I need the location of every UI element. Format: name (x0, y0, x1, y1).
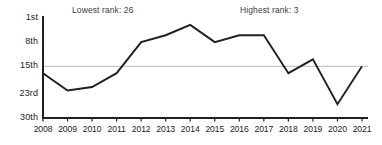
x-tick-label: 2012 (129, 124, 153, 134)
x-tick-label: 2014 (178, 124, 202, 134)
x-tick-label: 2013 (154, 124, 178, 134)
x-tick-label: 2008 (31, 124, 55, 134)
x-tick-label: 2010 (80, 124, 104, 134)
x-tick-label: 2018 (276, 124, 300, 134)
rank-line-chart: Lowest rank: 26 Highest rank: 3 1st8th15… (0, 0, 382, 145)
x-tick-label: 2011 (105, 124, 129, 134)
x-tick-label: 2021 (350, 124, 374, 134)
x-tick-label: 2016 (227, 124, 251, 134)
x-tick-label: 2019 (301, 124, 325, 134)
x-tick-label: 2020 (325, 124, 349, 134)
x-tick-label: 2017 (252, 124, 276, 134)
x-tick-label: 2009 (56, 124, 80, 134)
rank-data-line (43, 25, 362, 104)
x-axis-labels: 2008200920102011201220132014201520162017… (0, 124, 382, 142)
x-tick-label: 2015 (203, 124, 227, 134)
